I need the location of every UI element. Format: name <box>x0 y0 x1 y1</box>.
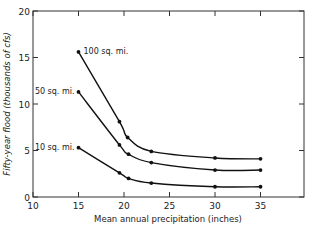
data-point <box>213 185 217 189</box>
data-point <box>127 152 131 156</box>
data-point <box>118 143 122 147</box>
data-point <box>259 168 263 172</box>
plot-frame <box>33 11 304 197</box>
y-axis-ticks: 05101520 <box>19 7 304 203</box>
data-point <box>77 50 81 54</box>
data-point <box>213 168 217 172</box>
y-tick-label: 20 <box>19 7 31 17</box>
y-tick-label: 5 <box>24 146 30 156</box>
data-point <box>259 185 263 189</box>
x-axis-ticks: 101520253035 <box>27 11 266 211</box>
flood-chart: 05101520 101520253035 100 sq. mi.50 sq. … <box>0 0 309 228</box>
series-group: 100 sq. mi.50 sq. mi.10 sq. mi. <box>35 47 263 189</box>
series-line <box>79 52 261 159</box>
series-label: 10 sq. mi. <box>35 143 75 152</box>
x-tick-label: 30 <box>209 201 221 211</box>
data-point <box>126 136 130 140</box>
data-point <box>118 171 122 175</box>
y-tick-label: 15 <box>19 53 30 63</box>
y-tick-label: 10 <box>19 100 31 110</box>
x-axis-title: Mean annual precipitation (inches) <box>94 214 242 224</box>
data-point <box>149 150 153 154</box>
y-axis-title: Fifty-year flood (thousands of cfs) <box>2 32 12 176</box>
x-tick-label: 15 <box>73 201 84 211</box>
data-point <box>213 156 217 160</box>
data-point <box>77 146 81 150</box>
series-label: 50 sq. mi. <box>35 87 75 96</box>
data-point <box>149 181 153 185</box>
x-tick-label: 35 <box>255 201 266 211</box>
data-point <box>259 157 263 161</box>
data-point <box>77 90 81 94</box>
data-point <box>149 161 153 165</box>
series-label: 100 sq. mi. <box>84 47 129 56</box>
data-point <box>118 120 122 124</box>
x-tick-label: 10 <box>27 201 39 211</box>
x-tick-label: 25 <box>164 201 175 211</box>
x-tick-label: 20 <box>118 201 130 211</box>
data-point <box>127 177 131 181</box>
